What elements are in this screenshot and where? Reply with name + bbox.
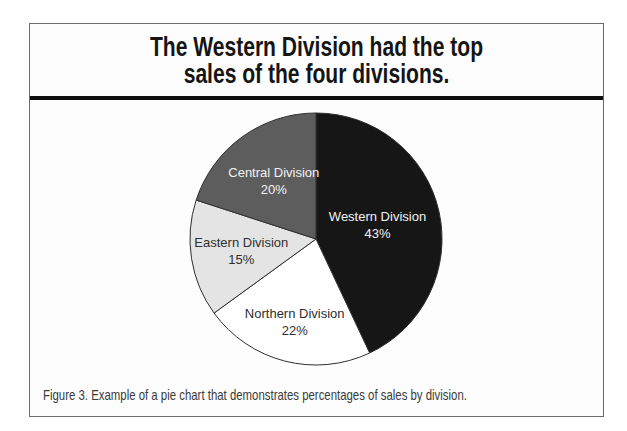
figure-title-section: The Western Division had the top sales o…	[30, 24, 603, 100]
chart-area: Western Division43%Northern Division22%E…	[30, 100, 603, 380]
figure-title-line2: sales of the four divisions.	[93, 61, 540, 88]
figure-caption: Figure 3. Example of a pie chart that de…	[43, 386, 467, 403]
figure-title: The Western Division had the top sales o…	[93, 34, 540, 88]
figure-title-line1: The Western Division had the top	[93, 34, 540, 61]
pie-chart: Western Division43%Northern Division22%E…	[188, 111, 444, 367]
figure-box: The Western Division had the top sales o…	[29, 23, 604, 417]
